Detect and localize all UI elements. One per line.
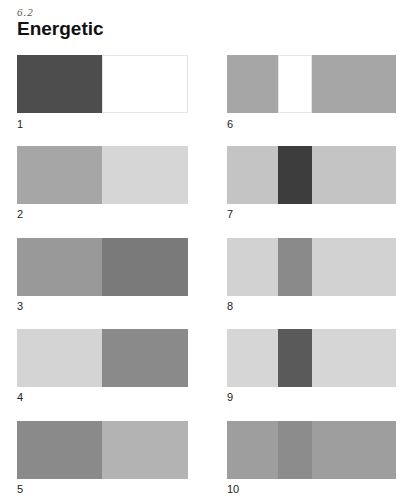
- swatch-3-label: 3: [17, 300, 23, 312]
- swatch-8-left: [227, 238, 278, 296]
- page-title: Energetic: [17, 18, 104, 40]
- swatch-8-right: [312, 238, 396, 296]
- swatch-7: [227, 146, 396, 204]
- swatch-2-left: [17, 146, 102, 204]
- swatch-6-label: 6: [227, 118, 233, 130]
- swatch-3-left: [17, 238, 102, 296]
- swatch-1: [17, 55, 188, 113]
- swatch-10-right: [312, 421, 396, 479]
- swatch-1-left: [17, 55, 102, 113]
- swatch-1-label: 1: [17, 118, 23, 130]
- swatch-5: [17, 421, 188, 479]
- swatch-10: [227, 421, 396, 479]
- swatch-7-right: [312, 146, 396, 204]
- swatch-4-label: 4: [17, 391, 23, 403]
- swatch-9: [227, 329, 396, 387]
- section-number: 6.2: [17, 6, 34, 18]
- swatch-10-center: [278, 421, 312, 479]
- swatch-4: [17, 329, 188, 387]
- swatch-2-label: 2: [17, 208, 23, 220]
- swatch-9-left: [227, 329, 278, 387]
- swatch-6-right: [312, 55, 396, 113]
- swatch-6-left: [227, 55, 278, 113]
- swatch-3: [17, 238, 188, 296]
- swatch-7-center: [278, 146, 312, 204]
- swatch-7-left: [227, 146, 278, 204]
- swatch-8-center: [278, 238, 312, 296]
- swatch-9-center: [278, 329, 312, 387]
- swatch-4-left: [17, 329, 102, 387]
- swatch-6: [227, 55, 396, 113]
- swatch-6-center: [278, 55, 312, 113]
- swatch-4-right: [102, 329, 188, 387]
- swatch-7-label: 7: [227, 208, 233, 220]
- swatch-5-label: 5: [17, 483, 23, 495]
- swatch-5-left: [17, 421, 102, 479]
- swatch-8-label: 8: [227, 300, 233, 312]
- swatch-9-right: [312, 329, 396, 387]
- swatch-8: [227, 238, 396, 296]
- swatch-10-label: 10: [227, 483, 239, 495]
- swatch-2: [17, 146, 188, 204]
- swatch-5-right: [102, 421, 188, 479]
- swatch-2-right: [102, 146, 188, 204]
- swatch-9-label: 9: [227, 391, 233, 403]
- swatch-10-left: [227, 421, 278, 479]
- swatch-1-right: [102, 55, 188, 113]
- swatch-3-right: [102, 238, 188, 296]
